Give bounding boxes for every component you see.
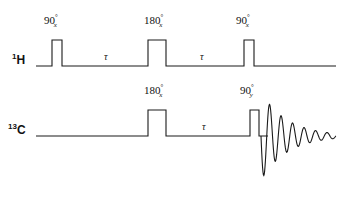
- pulse-phase: y: [250, 91, 253, 99]
- pulse-label-proton-180-x: 180°x: [144, 14, 162, 29]
- channel-label-carbon: 13C: [8, 122, 26, 137]
- channel-label-proton: 1H: [12, 52, 25, 67]
- pulse-label-proton-90-x-second: 90°x: [236, 14, 249, 29]
- carbon-fid-trace: [261, 104, 336, 175]
- degree-symbol: °: [161, 13, 164, 21]
- proton-nucleus-symbol: H: [16, 53, 25, 67]
- delay-label-proton-tau-first: τ: [104, 52, 108, 62]
- pulse-label-carbon-90-y: 90°y: [240, 84, 253, 99]
- trace-group: [36, 40, 336, 175]
- delay-label-proton-tau-second: τ: [200, 52, 204, 62]
- pulse-label-carbon-180-x: 180°x: [144, 84, 162, 99]
- degree-symbol: °: [161, 83, 164, 91]
- carbon-nucleus-symbol: C: [17, 123, 26, 137]
- pulse-phase: x: [54, 21, 57, 29]
- carbon-channel-trace: [36, 110, 268, 136]
- degree-symbol: °: [251, 83, 254, 91]
- pulse-sequence-figure: 1H 13C 90°x 180°x 90°x 180°x 90°y τ τ τ: [0, 0, 348, 198]
- pulse-phase: x: [159, 91, 162, 99]
- delay-label-carbon-tau: τ: [202, 122, 206, 132]
- pulse-sequence-drawing: [0, 0, 348, 198]
- degree-symbol: °: [247, 13, 250, 21]
- degree-symbol: °: [55, 13, 58, 21]
- pulse-label-proton-90-x-first: 90°x: [44, 14, 57, 29]
- pulse-phase: x: [246, 21, 249, 29]
- pulse-phase: x: [159, 21, 162, 29]
- carbon-mass-number: 13: [8, 122, 17, 131]
- proton-channel-trace: [36, 40, 336, 66]
